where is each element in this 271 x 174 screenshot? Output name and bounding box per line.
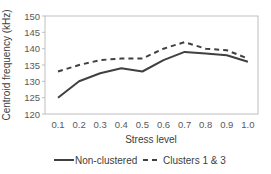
x-axis-ticks: 0.10.20.30.40.50.60.70.80.91.0	[51, 119, 254, 130]
y-tick-label: 130	[24, 76, 40, 87]
x-tick-label: 1.0	[241, 119, 254, 130]
y-axis-title: Centroid frequency (kHz)	[1, 9, 12, 120]
y-tick-label: 150	[24, 11, 40, 22]
x-tick-label: 0.2	[72, 119, 85, 130]
y-tick-label: 125	[24, 92, 40, 103]
x-tick-label: 0.7	[178, 119, 191, 130]
legend-label-clusters: Clusters 1 & 3	[163, 155, 226, 166]
x-tick-label: 0.3	[94, 119, 107, 130]
line-non-clustered	[58, 52, 248, 98]
x-tick-label: 0.4	[115, 119, 128, 130]
x-tick-label: 0.5	[136, 119, 149, 130]
legend: Non-clustered Clusters 1 & 3	[54, 155, 226, 166]
x-tick-label: 0.8	[199, 119, 212, 130]
legend-label-non-clustered: Non-clustered	[75, 155, 137, 166]
series-lines	[58, 42, 248, 98]
x-axis-title: Stress level	[125, 134, 177, 145]
y-tick-label: 120	[24, 109, 40, 120]
x-tick-label: 0.6	[157, 119, 170, 130]
y-tick-label: 140	[24, 43, 40, 54]
x-tick-label: 0.1	[51, 119, 64, 130]
line-clusters-1-3	[58, 42, 248, 71]
y-tick-label: 135	[24, 60, 40, 71]
y-axis-ticks: 120125130135140145150	[24, 11, 45, 120]
chart: 120125130135140145150 0.10.20.30.40.50.6…	[0, 0, 271, 174]
y-tick-label: 145	[24, 27, 40, 38]
x-tick-label: 0.9	[220, 119, 233, 130]
